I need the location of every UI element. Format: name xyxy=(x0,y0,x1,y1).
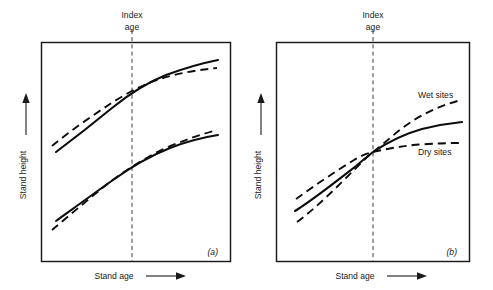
curve-lower-dashed-a xyxy=(52,130,217,230)
x-axis-label-a: Stand age xyxy=(94,271,133,281)
curve-average-solid-b xyxy=(295,122,462,211)
series-label-wet-sites: Wet sites xyxy=(418,90,453,100)
plot-frame-a xyxy=(42,43,231,262)
curve-upper-dashed-a xyxy=(52,68,217,146)
panel-b: Index age Wet sites Dry sites Stand heig… xyxy=(253,10,470,281)
index-age-label-line1-a: Index xyxy=(121,10,143,20)
y-axis-group-a: Stand height xyxy=(18,93,30,199)
y-axis-label-b: Stand height xyxy=(253,150,263,199)
series-label-dry-sites: Dry sites xyxy=(418,147,451,157)
curve-lower-solid-a xyxy=(56,135,218,221)
figure-svg: Index age Stand height Stand age xyxy=(0,0,493,290)
y-axis-arrow-head-b xyxy=(257,93,264,103)
x-axis-arrow-head-a xyxy=(176,272,186,279)
panel-a: Index age Stand height Stand age xyxy=(18,10,231,281)
index-age-label-line1-b: Index xyxy=(362,10,384,20)
y-axis-arrow-head-a xyxy=(22,93,29,103)
panel-label-b: (b) xyxy=(446,247,457,257)
figure-container: Index age Stand height Stand age xyxy=(0,0,493,290)
x-axis-group-b: Stand age xyxy=(335,271,427,281)
x-axis-group-a: Stand age xyxy=(94,271,186,281)
curve-upper-solid-a xyxy=(56,60,218,152)
x-axis-arrow-head-b xyxy=(417,272,427,279)
curve-wet-sites-b xyxy=(297,100,461,222)
y-axis-label-a: Stand height xyxy=(18,150,28,199)
x-axis-label-b: Stand age xyxy=(335,271,374,281)
y-axis-group-b: Stand height xyxy=(253,93,265,199)
panel-label-a: (a) xyxy=(207,247,218,257)
